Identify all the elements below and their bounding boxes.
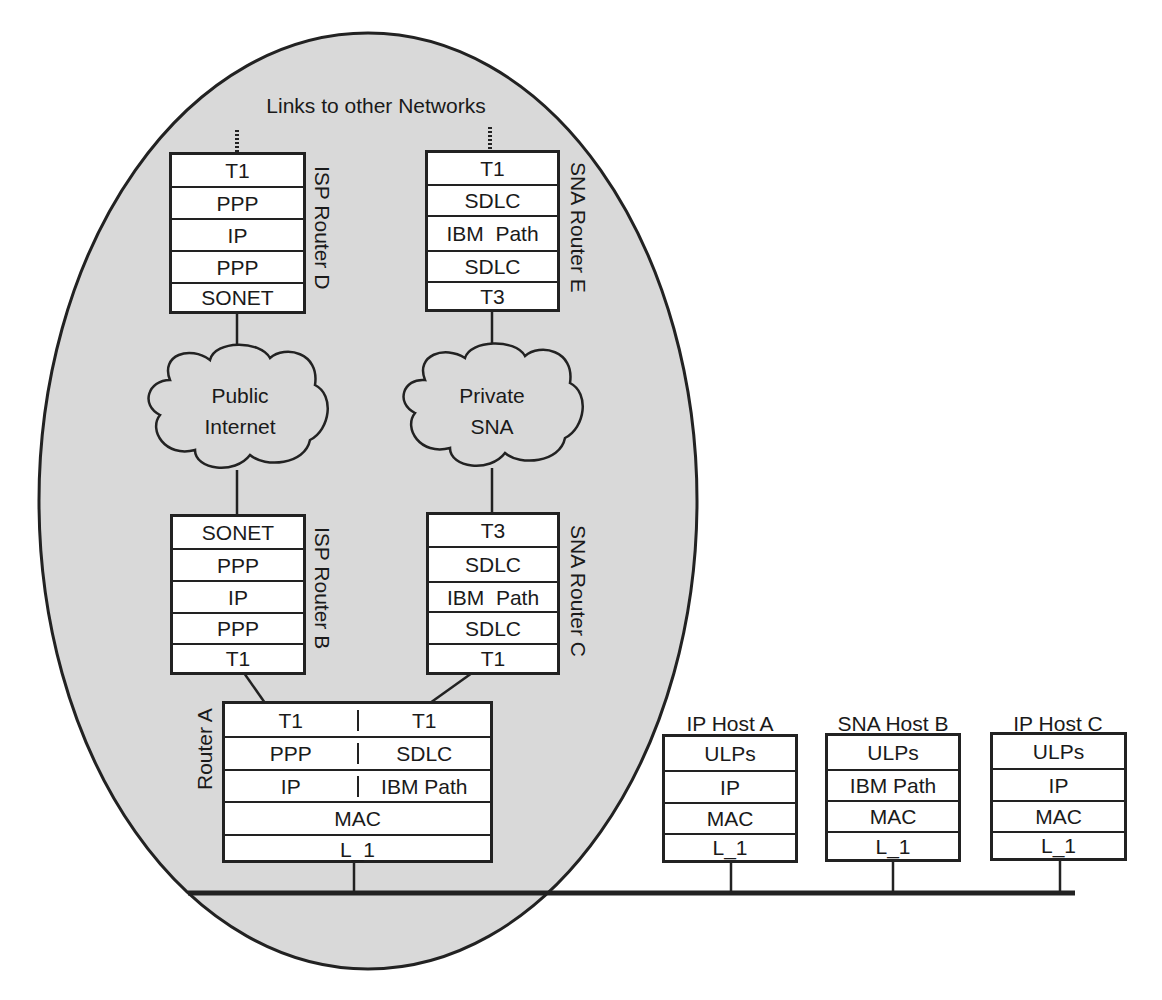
layer-sdlc: SDLC: [357, 743, 491, 764]
layer-l1: L_1: [828, 831, 958, 859]
layer-ibm-path: IBM Path: [428, 215, 557, 250]
layer-mac: MAC: [225, 801, 490, 834]
layer-ulps: ULPs: [665, 737, 795, 770]
layer-ip: IP: [993, 768, 1124, 800]
layer-sonet: SONET: [172, 282, 303, 311]
layer-ip: IP: [172, 218, 303, 250]
links-to-other-networks-label: Links to other Networks: [256, 94, 496, 118]
router-a-row-3: IP IBM Path: [225, 769, 490, 801]
layer-ip: IP: [225, 776, 357, 797]
diagram-canvas: [0, 0, 1162, 1000]
isp-router-b-stack: SONET PPP IP PPP T1: [170, 514, 306, 675]
layer-t3: T3: [429, 515, 557, 546]
isp-router-b-label: ISP Router B: [310, 527, 334, 649]
layer-mac: MAC: [665, 802, 795, 833]
public-cloud-line2: Internet: [190, 411, 290, 442]
layer-mac: MAC: [828, 800, 958, 831]
layer-l1: L_1: [225, 834, 490, 863]
private-cloud-line2: SNA: [442, 411, 542, 442]
layer-l1: L_1: [993, 831, 1124, 858]
layer-t1: T1: [428, 153, 557, 184]
layer-ppp: PPP: [172, 250, 303, 282]
layer-sdlc: SDLC: [429, 546, 557, 581]
layer-t1-right: T1: [357, 710, 491, 731]
layer-sdlc: SDLC: [429, 611, 557, 643]
layer-t1: T1: [429, 643, 557, 672]
public-internet-label: Public Internet: [190, 380, 290, 442]
layer-ppp: PPP: [173, 548, 303, 580]
router-a-row-2: PPP SDLC: [225, 736, 490, 769]
layer-sdlc: SDLC: [428, 184, 557, 215]
layer-t1: T1: [172, 155, 303, 186]
private-sna-label: Private SNA: [442, 380, 542, 442]
layer-ibm-path: IBM Path: [357, 776, 491, 797]
layer-ulps: ULPs: [828, 736, 958, 769]
sna-host-b-stack: ULPs IBM Path MAC L_1: [825, 733, 961, 862]
ip-host-c-stack: ULPs IP MAC L_1: [990, 732, 1127, 861]
layer-ppp: PPP: [173, 612, 303, 643]
layer-t1: T1: [173, 643, 303, 672]
layer-ip: IP: [665, 770, 795, 802]
router-a-label: Router A: [193, 708, 217, 790]
layer-sonet: SONET: [173, 517, 303, 548]
layer-mac: MAC: [993, 800, 1124, 831]
sna-router-c-label: SNA Router C: [566, 525, 590, 657]
private-cloud-line1: Private: [442, 380, 542, 411]
isp-router-d-label: ISP Router D: [310, 166, 334, 289]
layer-sdlc: SDLC: [428, 250, 557, 281]
sna-router-e-stack: T1 SDLC IBM Path SDLC T3: [425, 150, 560, 312]
host-a-label: IP Host A: [662, 712, 798, 736]
layer-l1: L_1: [665, 833, 795, 860]
sna-router-c-stack: T3 SDLC IBM Path SDLC T1: [426, 512, 560, 675]
layer-ibm-path: IBM Path: [828, 769, 958, 800]
layer-ppp: PPP: [172, 186, 303, 218]
layer-ip: IP: [173, 580, 303, 612]
isp-router-d-stack: T1 PPP IP PPP SONET: [169, 152, 306, 314]
layer-ulps: ULPs: [993, 735, 1124, 768]
sna-router-e-label: SNA Router E: [566, 162, 590, 293]
layer-ppp: PPP: [225, 743, 357, 764]
router-a-row-1: T1 T1: [225, 704, 490, 736]
public-cloud-line1: Public: [190, 380, 290, 411]
layer-t3: T3: [428, 281, 557, 309]
layer-ibm-path: IBM Path: [429, 581, 557, 611]
layer-t1-left: T1: [225, 710, 357, 731]
router-a-stack: T1 T1 PPP SDLC IP IBM Path MAC L_1: [222, 701, 493, 863]
ip-host-a-stack: ULPs IP MAC L_1: [662, 734, 798, 863]
